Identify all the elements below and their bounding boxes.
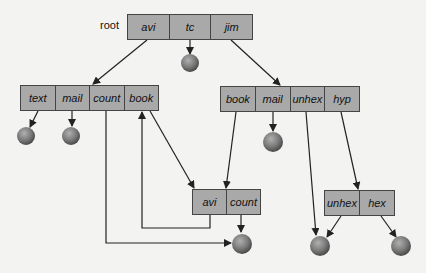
file-node-tc bbox=[181, 54, 199, 72]
entry-text: text bbox=[21, 86, 56, 110]
edges-layer bbox=[0, 0, 426, 273]
entry-jim: jim bbox=[211, 15, 252, 39]
entry-hyp: hyp bbox=[325, 87, 359, 111]
entry-count: count bbox=[90, 86, 125, 110]
file-node-unhex bbox=[310, 236, 330, 256]
root-label: root bbox=[100, 19, 119, 31]
dir-avi: text mail count book bbox=[20, 85, 159, 111]
entry-unhex: unhex bbox=[325, 191, 360, 215]
entry-hex: hex bbox=[360, 191, 394, 215]
file-node-jim-mail bbox=[263, 132, 283, 152]
file-node-count bbox=[232, 234, 252, 254]
entry-avi: avi bbox=[193, 190, 227, 214]
directory-graph: root avi tc jim text mail count book boo… bbox=[0, 0, 426, 273]
entry-tc: tc bbox=[170, 15, 212, 39]
dir-book: avi count bbox=[192, 189, 261, 215]
file-node-text bbox=[17, 127, 35, 145]
dir-root: avi tc jim bbox=[127, 14, 253, 40]
dir-hyp: unhex hex bbox=[324, 190, 395, 216]
entry-mail: mail bbox=[256, 87, 291, 111]
file-node-hex bbox=[391, 236, 411, 256]
entry-book: book bbox=[125, 86, 159, 110]
entry-mail: mail bbox=[56, 86, 91, 110]
entry-avi: avi bbox=[128, 15, 170, 39]
entry-book: book bbox=[221, 87, 256, 111]
entry-count: count bbox=[227, 190, 260, 214]
entry-unhex: unhex bbox=[291, 87, 326, 111]
file-node-avi-mail bbox=[62, 127, 80, 145]
dir-jim: book mail unhex hyp bbox=[220, 86, 360, 112]
